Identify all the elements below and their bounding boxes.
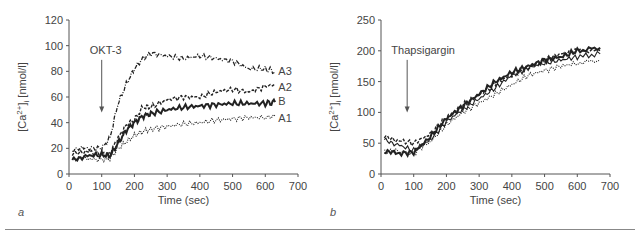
y-tick-label: 50 xyxy=(363,137,375,149)
y-tick-label: 80 xyxy=(51,65,63,77)
x-tick-label: 0 xyxy=(378,180,384,192)
y-tick-label: 40 xyxy=(51,117,63,129)
series-trace1 xyxy=(384,47,600,156)
figure: 0204060801001200100200300400500600700Tim… xyxy=(0,0,640,241)
x-tick-label: 600 xyxy=(256,180,274,192)
x-tick-label: 700 xyxy=(601,180,619,192)
x-tick-label: 300 xyxy=(158,180,176,192)
y-tick-label: 120 xyxy=(45,14,63,26)
annotation-label: OKT-3 xyxy=(90,44,122,56)
series-label-B: B xyxy=(278,95,285,107)
y-tick-label: 150 xyxy=(357,76,375,88)
x-tick-label: 300 xyxy=(470,180,488,192)
panel-label: b xyxy=(330,206,336,218)
x-tick-label: 400 xyxy=(191,180,209,192)
series-trace2 xyxy=(384,49,600,146)
series-label-A1: A1 xyxy=(278,112,291,124)
y-tick-label: 60 xyxy=(51,91,63,103)
y-tick-label: 100 xyxy=(357,106,375,118)
chart-panel-b: 0501001502002500100200300400500600700Tim… xyxy=(327,14,619,218)
y-tick-label: 0 xyxy=(369,168,375,180)
series-trace3 xyxy=(384,52,600,152)
x-tick-label: 100 xyxy=(93,180,111,192)
x-tick-label: 400 xyxy=(503,180,521,192)
chart-panel-a: 0204060801001200100200300400500600700Tim… xyxy=(15,14,307,218)
bottom-rule xyxy=(5,229,635,230)
x-axis-label: Time (sec) xyxy=(470,194,522,206)
y-tick-label: 20 xyxy=(51,142,63,154)
series-trace4 xyxy=(384,60,600,155)
x-tick-label: 200 xyxy=(125,180,143,192)
x-tick-label: 500 xyxy=(535,180,553,192)
x-tick-label: 500 xyxy=(223,180,241,192)
x-tick-label: 700 xyxy=(289,180,307,192)
panel-label: a xyxy=(18,206,24,218)
series-A3 xyxy=(72,52,275,151)
annotation-label: Thapsigargin xyxy=(391,44,455,56)
series-label-A2: A2 xyxy=(278,81,291,93)
y-axis-label: [Ca2+]i [nmol/l] xyxy=(15,62,31,132)
y-tick-label: 250 xyxy=(357,14,375,26)
y-tick-label: 100 xyxy=(45,40,63,52)
series-A2 xyxy=(72,84,275,157)
x-tick-label: 600 xyxy=(568,180,586,192)
x-tick-label: 200 xyxy=(437,180,455,192)
x-tick-label: 100 xyxy=(405,180,423,192)
y-tick-label: 0 xyxy=(57,168,63,180)
series-label-A3: A3 xyxy=(278,65,291,77)
y-tick-label: 200 xyxy=(357,45,375,57)
x-tick-label: 0 xyxy=(66,180,72,192)
x-axis-label: Time (sec) xyxy=(158,194,210,206)
y-axis-label: [Ca2+]i [nmol/l] xyxy=(327,62,343,132)
